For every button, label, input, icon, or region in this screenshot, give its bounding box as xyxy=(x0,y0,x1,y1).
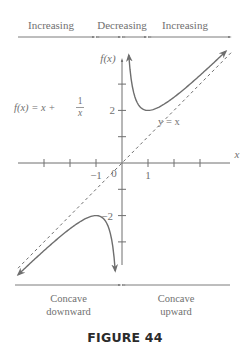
x-tick-label: −1 xyxy=(90,169,102,181)
y-tick-label: −2 xyxy=(101,210,113,222)
monotonicity-label: Increasing xyxy=(162,19,208,31)
asymptote-y-equals-x xyxy=(18,53,231,269)
monotonicity-label: Decreasing xyxy=(97,19,147,31)
function-curve-negative xyxy=(18,216,115,275)
function-label-numerator: 1 xyxy=(78,96,83,106)
x-axis-label: x xyxy=(234,148,240,160)
figure-caption: FIGURE 44 xyxy=(0,330,250,345)
function-label: f(x) = x + 1x xyxy=(14,96,84,118)
y-tick-label: 2 xyxy=(110,104,116,116)
concavity-label: Concave xyxy=(50,293,87,304)
function-label-lhs: f(x) = x + xyxy=(14,102,55,114)
figure-chart: IncreasingDecreasingIncreasing−112−20xf(… xyxy=(0,0,250,355)
y-axis-label: f(x) xyxy=(100,52,116,65)
monotonicity-label: Increasing xyxy=(28,19,74,31)
asymptote-label: y = x xyxy=(158,116,180,127)
concavity-label: upward xyxy=(160,306,192,317)
x-tick-label: 1 xyxy=(145,169,151,181)
concavity-label: downward xyxy=(46,306,91,317)
concavity-label: Concave xyxy=(158,293,195,304)
function-label-denominator: x xyxy=(77,108,83,118)
function-curve-positive xyxy=(129,51,226,110)
